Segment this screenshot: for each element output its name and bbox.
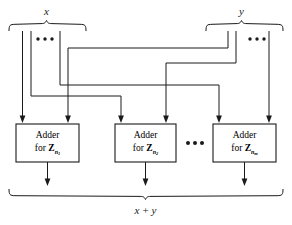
wire-x1-to-adder1 <box>20 31 26 123</box>
label-sum-x: x <box>134 204 140 216</box>
label-sum-op: + <box>142 204 148 216</box>
adder-m-line1: Adder <box>233 130 258 140</box>
ellipsis-x-inputs <box>36 37 53 40</box>
label-x: x <box>43 5 49 17</box>
adder-2-line1: Adder <box>134 130 159 140</box>
label-y: y <box>238 5 244 17</box>
brace-sum <box>9 189 283 200</box>
adder-network-diagram: x y <box>0 0 292 225</box>
adder-1-line1: Adder <box>36 130 61 140</box>
adder-1[interactable]: Adder for Zn1 <box>16 124 79 186</box>
wire-y2-to-adder2 <box>163 31 236 123</box>
label-sum-y: y <box>151 204 157 216</box>
adder-m-for: for <box>231 143 244 153</box>
wire-xm-to-adderm <box>60 31 222 123</box>
ellipsis-adders <box>186 141 204 145</box>
brace-y <box>206 21 283 32</box>
label-x-plus-y: x+y <box>134 204 157 216</box>
wire-x2-to-adder2 <box>31 31 124 123</box>
adder-2[interactable]: Adder for Zn2 <box>115 124 176 186</box>
diagram-canvas: x y <box>0 0 292 225</box>
adder-m-subsub: m <box>254 151 258 156</box>
ellipsis-y-inputs <box>248 37 265 40</box>
wire-ym-to-adderm <box>266 31 272 123</box>
adder-2-for: for <box>133 143 146 153</box>
adder-1-for: for <box>35 143 48 153</box>
brace-x <box>9 21 86 32</box>
wire-y1-to-adder1 <box>65 31 228 123</box>
adder-1-subsub: 1 <box>58 151 60 156</box>
adder-m[interactable]: Adder for Znm <box>213 124 276 186</box>
